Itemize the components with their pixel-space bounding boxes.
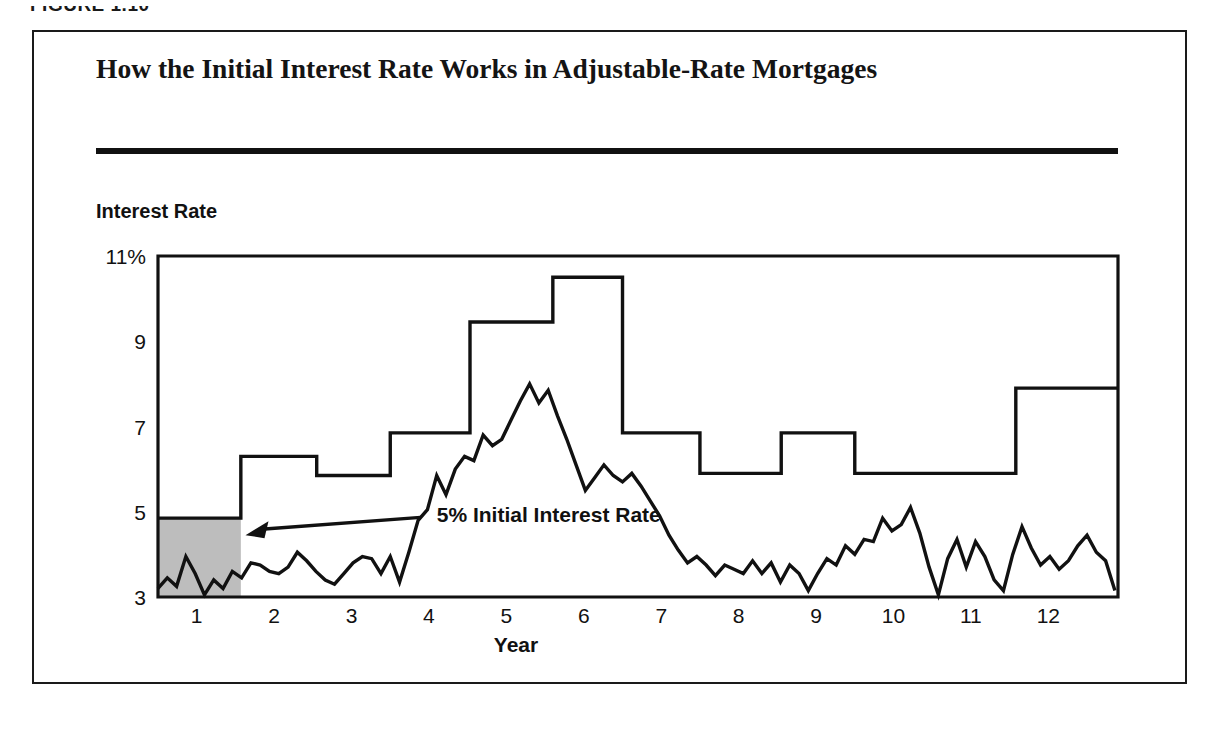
x-axis-title: Year [494,633,538,656]
annotation-arrow-head [245,521,268,538]
x-tick-label: 3 [346,604,358,627]
x-tick-label: 5 [501,604,513,627]
index-path [158,384,1115,595]
x-tick-label: 7 [655,604,667,627]
x-tick-label: 6 [578,604,590,627]
x-tick-label: 2 [268,604,280,627]
x-axis-tick-labels: 123456789101112 [191,604,1060,627]
y-tick-label: 5 [134,501,146,524]
initial-rate-annotation: 5% Initial Interest Rate [245,503,660,538]
y-tick-label: 9 [134,330,146,353]
y-axis-tick-labels: 357911% [106,245,146,609]
x-tick-label: 1 [191,604,203,627]
x-tick-label: 8 [733,604,745,627]
interest-rate-chart: 357911% 123456789101112 5% Initial Inter… [0,0,1221,746]
x-axis-label: Year [494,633,538,656]
annotation-arrow-shaft [261,517,420,529]
x-tick-label: 10 [882,604,905,627]
x-tick-label: 4 [423,604,435,627]
y-tick-label: 7 [134,416,146,439]
x-tick-label: 12 [1037,604,1060,627]
y-tick-label: 11% [106,245,146,268]
y-tick-label: 3 [134,586,146,609]
annotation-text: 5% Initial Interest Rate [437,503,661,526]
x-tick-label: 9 [810,604,822,627]
index-rate-line [158,384,1115,595]
x-tick-label: 11 [960,604,982,627]
